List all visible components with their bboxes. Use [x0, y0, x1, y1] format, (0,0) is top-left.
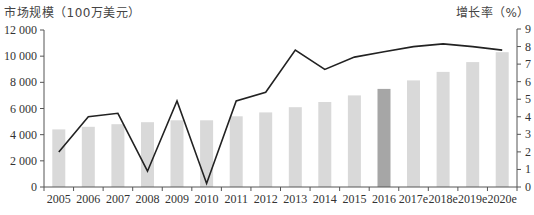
x-axis-tick-label: 2012	[254, 192, 278, 206]
x-axis-tick-label: 2011	[224, 192, 248, 206]
growth-rate-line	[59, 44, 502, 184]
right-axis-tick-label: 7	[525, 57, 531, 71]
bar-2012	[259, 112, 272, 187]
x-axis-tick-label: 2013	[283, 192, 307, 206]
bar-2017e	[407, 80, 420, 187]
x-axis-tick-label: 2020e	[488, 192, 517, 206]
left-axis-tick-label: 8 000	[10, 75, 37, 89]
right-axis-tick-label: 1	[525, 162, 531, 176]
x-axis-tick-label: 2006	[76, 192, 100, 206]
right-axis-tick-label: 2	[525, 145, 531, 159]
right-axis-tick-label: 3	[525, 127, 531, 141]
right-axis-tick-label: 0	[525, 180, 531, 194]
bar-2016	[378, 89, 391, 187]
right-axis-tick-label: 6	[525, 75, 531, 89]
x-axis-tick-label: 2009	[165, 192, 189, 206]
right-axis-tick-label: 4	[525, 110, 531, 124]
bar-2008	[141, 122, 154, 187]
right-axis-tick-label: 8	[525, 40, 531, 54]
x-axis-tick-label: 2017e	[399, 192, 428, 206]
left-axis-tick-label: 4 000	[10, 128, 37, 142]
x-axis-tick-label: 2018e	[428, 192, 457, 206]
left-axis-tick-label: 12 000	[4, 23, 37, 37]
bar-2020e	[496, 52, 509, 187]
left-axis-tick-label: 0	[31, 180, 37, 194]
bar-2014	[318, 102, 331, 187]
combo-chart: 02 0004 0006 0008 00010 00012 0000123456…	[0, 0, 534, 215]
left-axis-tick-label: 6 000	[10, 102, 37, 116]
right-axis-tick-label: 5	[525, 92, 531, 106]
bar-2019e	[466, 62, 479, 187]
bar-2006	[82, 127, 95, 187]
x-axis-tick-label: 2008	[136, 192, 160, 206]
x-axis-tick-label: 2019e	[458, 192, 487, 206]
x-axis-tick-label: 2014	[313, 192, 337, 206]
x-axis-tick-label: 2015	[342, 192, 366, 206]
x-axis-tick-label: 2007	[106, 192, 130, 206]
bar-2015	[348, 95, 361, 187]
x-axis-tick-label: 2010	[195, 192, 219, 206]
bar-2013	[289, 107, 302, 187]
bar-2007	[111, 124, 124, 187]
bar-2011	[230, 116, 243, 187]
x-axis-tick-label: 2016	[372, 192, 396, 206]
bar-2009	[171, 120, 184, 187]
x-axis-tick-label: 2005	[47, 192, 71, 206]
left-axis-tick-label: 2 000	[10, 154, 37, 168]
bar-2005	[52, 129, 65, 187]
right-axis-tick-label: 9	[525, 22, 531, 36]
line-series-growth-rate	[59, 44, 502, 184]
left-axis-tick-label: 10 000	[4, 49, 37, 63]
bar-2010	[200, 120, 213, 187]
bar-2018e	[437, 72, 450, 187]
